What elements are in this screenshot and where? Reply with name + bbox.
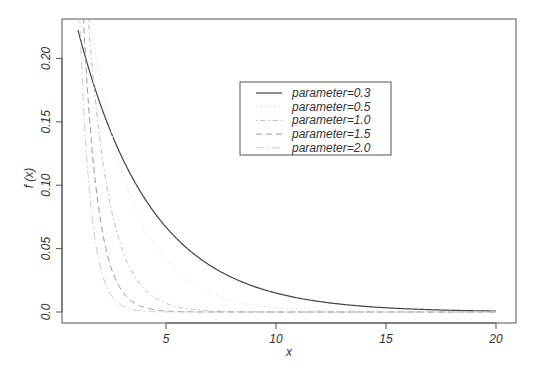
- curve-parameter-1-5: [78, 0, 496, 312]
- curve-parameter-0-3: [78, 30, 496, 311]
- y-tick-label: 0.05: [39, 237, 53, 261]
- x-tick-label: 10: [269, 332, 283, 346]
- curve-parameter-0-5: [78, 0, 496, 312]
- plot-frame: [62, 19, 516, 323]
- curve-parameter-2-0: [78, 0, 496, 312]
- x-tick-label: 20: [488, 332, 503, 346]
- y-tick-label: 0.10: [39, 173, 53, 197]
- legend-label: parameter=1.0: [291, 113, 371, 127]
- y-axis: 0.00.050.100.150.20: [39, 46, 62, 320]
- y-tick-label: 0.15: [39, 110, 53, 134]
- legend-label: parameter=0.5: [291, 100, 371, 114]
- legend-label: parameter=2.0: [291, 141, 371, 155]
- x-tick-label: 5: [163, 332, 170, 346]
- chart: 5101520 0.00.050.100.150.20 x f (x) para…: [0, 0, 535, 378]
- curve-parameter-1-0: [78, 0, 496, 312]
- legend-label: parameter=1.5: [291, 127, 371, 141]
- y-tick-label: 0.0: [39, 303, 53, 320]
- x-tick-label: 15: [379, 332, 393, 346]
- legend: parameter=0.3parameter=0.5parameter=1.0p…: [240, 82, 391, 155]
- legend-label: parameter=0.3: [291, 86, 371, 100]
- curves: [78, 0, 496, 312]
- y-tick-label: 0.20: [39, 46, 53, 70]
- x-axis: 5101520: [163, 323, 503, 346]
- y-axis-label: f (x): [22, 168, 36, 189]
- x-axis-label: x: [285, 345, 293, 359]
